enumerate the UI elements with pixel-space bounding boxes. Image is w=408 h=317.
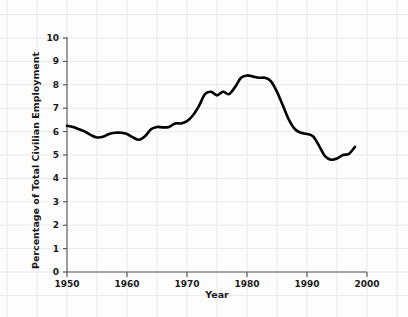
x-tick-label: 1970 [167, 279, 207, 289]
x-tick-label: 2000 [347, 279, 387, 289]
chart-figure: 012345678910 195019601970198019902000 Pe… [0, 0, 408, 317]
data-series-line [67, 75, 355, 159]
line-chart-plot [0, 0, 408, 317]
axis-ticks [63, 38, 367, 277]
y-axis-title: Percentage of Total Civilian Employment [30, 41, 41, 281]
x-tick-label: 1950 [47, 279, 87, 289]
x-axis-title: Year [127, 289, 307, 300]
x-tick-label: 1990 [287, 279, 327, 289]
x-tick-label: 1980 [227, 279, 267, 289]
plot-axes [67, 37, 367, 272]
x-tick-label: 1960 [107, 279, 147, 289]
